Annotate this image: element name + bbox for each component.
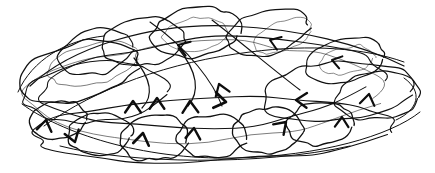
scribble-drawing bbox=[0, 0, 435, 173]
scribble-canvas: Scribbled tangle of overlapping loops wi… bbox=[0, 0, 435, 173]
